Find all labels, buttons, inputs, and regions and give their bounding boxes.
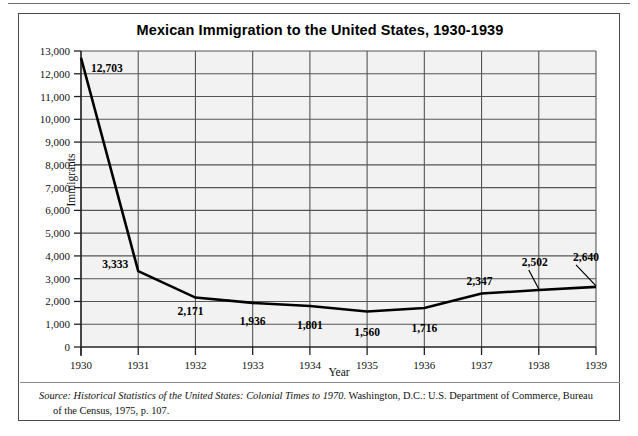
y-axis-tick-label: 4,000 bbox=[45, 250, 70, 262]
y-axis-tick-label: 12,000 bbox=[40, 68, 71, 80]
data-point-label: 2,640 bbox=[573, 251, 599, 263]
x-axis-label: Year bbox=[79, 366, 599, 378]
page-top-rule bbox=[8, 3, 630, 4]
source-note: Source: Historical Statistics of the Uni… bbox=[39, 388, 605, 418]
data-point-label: 2,171 bbox=[178, 305, 204, 317]
y-axis-label: Immigrants bbox=[65, 120, 77, 240]
data-point-label: 1,716 bbox=[411, 322, 437, 334]
data-point-label: 12,703 bbox=[91, 62, 123, 74]
data-point-label: 1,801 bbox=[297, 319, 323, 331]
data-point-label: 2,502 bbox=[522, 256, 548, 268]
y-axis-tick-label: 2,000 bbox=[45, 295, 70, 307]
plot-area: 01,0002,0003,0004,0005,0006,0007,0008,00… bbox=[19, 14, 621, 422]
source-note-line2: of the Census, 1975, p. 107. bbox=[39, 403, 605, 418]
data-point-label: 1,936 bbox=[240, 315, 266, 327]
y-axis-tick-label: 11,000 bbox=[40, 91, 70, 103]
source-divider bbox=[20, 382, 620, 383]
y-axis-tick-label: 3,000 bbox=[45, 273, 70, 285]
source-prefix: Source: bbox=[39, 390, 71, 401]
y-axis-tick-label: 1,000 bbox=[45, 318, 70, 330]
plot-background bbox=[81, 51, 596, 347]
figure-container: Mexican Immigration to the United States… bbox=[0, 0, 638, 436]
source-title: Historical Statistics of the United Stat… bbox=[74, 390, 346, 401]
data-point-label: 2,347 bbox=[467, 275, 493, 287]
y-axis-tick-label: 13,000 bbox=[40, 45, 71, 57]
line-chart-svg: 01,0002,0003,0004,0005,0006,0007,0008,00… bbox=[19, 14, 621, 374]
source-publisher: Washington, D.C.: U.S. Department of Com… bbox=[346, 390, 593, 401]
data-point-label: 3,333 bbox=[102, 258, 128, 270]
chart-frame: Mexican Immigration to the United States… bbox=[18, 13, 620, 421]
y-axis-tick-label: 0 bbox=[65, 341, 71, 353]
data-point-label: 1,560 bbox=[354, 326, 380, 338]
